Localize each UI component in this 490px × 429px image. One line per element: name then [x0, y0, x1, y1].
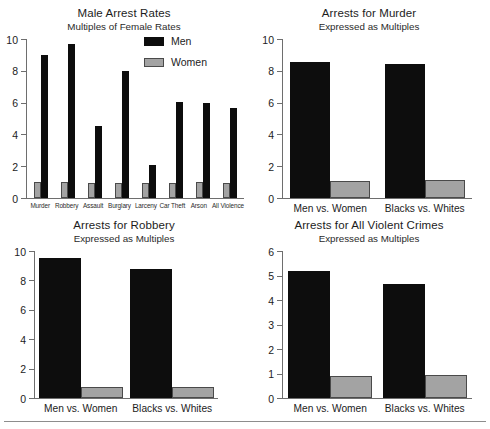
y-tick-label: 8: [12, 66, 18, 77]
bar-dark: [288, 271, 330, 398]
y-tick: 0: [29, 398, 34, 399]
y-tick: 8: [29, 280, 34, 281]
y-tick: 4: [277, 134, 282, 135]
x-axis-label: Men vs. Women: [283, 403, 378, 414]
bar-cluster: [81, 39, 108, 198]
chart-panel-robbery: Arrests for Robbery Expressed as Multipl…: [0, 218, 248, 420]
plot-area: 0246810: [282, 39, 472, 199]
y-tick: 1: [277, 374, 282, 375]
legend-swatch-men: [144, 37, 164, 46]
bar-light: [425, 375, 467, 398]
bar-light: [196, 182, 203, 198]
y-tick-label: 8: [268, 66, 274, 77]
bar-dark: [41, 55, 48, 198]
bar-light: [88, 183, 95, 198]
x-axis-label: Men vs. Women: [283, 203, 378, 214]
bar-dark: [203, 103, 210, 198]
chart-subtitle: Multiples of Female Rates: [0, 20, 248, 33]
bar-cluster: [378, 251, 473, 398]
chart-subtitle: Expressed as Multiples: [0, 232, 248, 245]
bar-light: [172, 387, 214, 398]
bar-light: [142, 183, 149, 198]
bar-light: [115, 183, 122, 198]
y-tick: 2: [29, 369, 34, 370]
plot-area: 0123456: [282, 251, 472, 399]
y-tick: 0: [277, 398, 282, 399]
bar-dark: [149, 165, 156, 198]
bar-dark: [383, 284, 425, 398]
bar-group: [283, 251, 472, 398]
bar-cluster: [283, 39, 378, 198]
x-axis-labels: Men vs. WomenBlacks vs. Whites: [283, 203, 472, 214]
y-tick: 3: [277, 325, 282, 326]
chart-panel-male-arrest-rates: Male Arrest Rates Multiples of Female Ra…: [0, 6, 248, 220]
y-tick: 10: [29, 251, 34, 252]
y-tick: 6: [21, 103, 26, 104]
x-axis: [282, 398, 472, 399]
bar-cluster: [35, 251, 127, 398]
y-tick-label: 2: [268, 344, 274, 355]
y-tick: 5: [277, 276, 282, 277]
x-axis-labels: Men vs. WomenBlacks vs. Whites: [283, 403, 472, 414]
chart-title: Male Arrest Rates: [0, 6, 248, 20]
y-tick-label: 1: [268, 369, 274, 380]
bar-light: [330, 376, 372, 398]
x-axis-label: All Violence: [212, 202, 244, 209]
y-tick-label: 0: [12, 193, 18, 204]
y-tick-label: 6: [12, 98, 18, 109]
bar-dark: [95, 126, 102, 198]
x-axis-label: Burglary: [106, 202, 132, 209]
y-tick: 0: [277, 198, 282, 199]
bar-dark: [176, 102, 183, 198]
chart-title: Arrests for All Violent Crimes: [248, 218, 490, 232]
bar-cluster: [127, 251, 219, 398]
y-tick: 4: [277, 300, 282, 301]
x-axis-label: Blacks vs. Whites: [378, 203, 473, 214]
legend-swatch-women: [144, 58, 164, 67]
bar-dark: [130, 269, 172, 398]
y-tick-label: 10: [6, 34, 18, 45]
y-tick-label: 4: [268, 130, 274, 141]
y-tick: 8: [277, 71, 282, 72]
bar-cluster: [378, 39, 473, 198]
x-axis-label: Murder: [27, 202, 53, 209]
y-tick-label: 2: [20, 364, 26, 375]
chart-title: Arrests for Robbery: [0, 218, 248, 232]
y-tick-label: 6: [20, 305, 26, 316]
y-tick: 2: [277, 166, 282, 167]
y-tick: 6: [29, 310, 34, 311]
y-tick-label: 0: [20, 393, 26, 404]
y-tick: 4: [29, 339, 34, 340]
x-axis: [34, 398, 218, 399]
y-tick: 2: [277, 349, 282, 350]
bar-group: [27, 39, 244, 198]
legend-item-men: Men: [144, 35, 207, 47]
bar-cluster: [108, 39, 135, 198]
y-tick: 2: [21, 166, 26, 167]
x-axis-label: Car Theft: [159, 202, 185, 209]
y-tick-label: 10: [14, 246, 26, 257]
x-axis-label: Robbery: [53, 202, 79, 209]
chart-legend: Men Women: [144, 35, 207, 68]
y-tick: 10: [277, 39, 282, 40]
y-tick-label: 8: [20, 276, 26, 287]
bar-cluster: [283, 251, 378, 398]
y-tick: 6: [277, 251, 282, 252]
chart-title: Arrests for Murder: [248, 6, 490, 20]
bar-cluster: [217, 39, 244, 198]
y-tick-label: 4: [20, 334, 26, 345]
chart-sheet: Male Arrest Rates Multiples of Female Ra…: [0, 0, 490, 429]
bar-dark: [39, 258, 81, 398]
x-axis-label: Arson: [186, 202, 212, 209]
y-tick-label: 2: [12, 161, 18, 172]
bar-group: [283, 39, 472, 198]
y-tick: 6: [277, 103, 282, 104]
x-axis-label: Assault: [80, 202, 106, 209]
x-axis: [282, 198, 472, 199]
x-axis-labels: Men vs. WomenBlacks vs. Whites: [35, 403, 218, 414]
bar-cluster: [27, 39, 54, 198]
x-axis-labels: MurderRobberyAssaultBurglaryLarcenyCar T…: [27, 202, 244, 209]
legend-label-women: Women: [171, 56, 207, 68]
bar-light: [61, 182, 68, 198]
x-axis-label: Men vs. Women: [35, 403, 127, 414]
